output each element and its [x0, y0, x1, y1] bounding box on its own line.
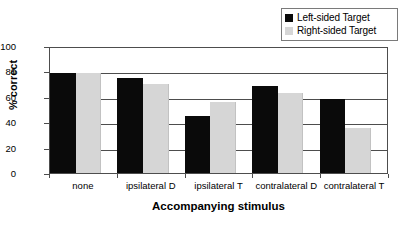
bar-group-ipsilateral-t	[185, 48, 252, 173]
legend-label-left-sided-target: Left-sided Target	[297, 12, 370, 23]
bar-right-sided-target-contralateral-d	[278, 93, 304, 173]
y-tick-label-100: 100	[0, 42, 16, 52]
bar-left-sided-target-contralateral-t	[320, 99, 346, 173]
y-tick-label-80: 80	[0, 67, 16, 77]
legend-entry-right-sided-target: Right-sided Target	[285, 24, 394, 37]
bar-group-contralateral-d	[252, 48, 319, 173]
x-tick-mark-1	[117, 174, 118, 178]
legend-label-right-sided-target: Right-sided Target	[297, 25, 376, 36]
chart-legend: Left-sided Target Right-sided Target	[281, 8, 398, 41]
x-tick-mark-0	[49, 174, 50, 178]
bar-left-sided-target-none	[50, 73, 76, 173]
x-tick-mark-3	[252, 174, 253, 178]
bar-left-sided-target-ipsilateral-t	[185, 116, 211, 174]
x-tick-mark-4	[320, 174, 321, 178]
legend-swatch-black-icon	[285, 14, 293, 22]
bar-right-sided-target-ipsilateral-d	[143, 84, 169, 173]
x-tick-label-contralateral-d: contralateral D	[252, 180, 320, 191]
y-axis-title: % correct	[7, 47, 19, 123]
legend-entry-left-sided-target: Left-sided Target	[285, 11, 394, 24]
bar-left-sided-target-contralateral-d	[252, 86, 278, 174]
bar-chart-figure: Left-sided Target Right-sided Target % c…	[0, 0, 408, 229]
plot-area	[49, 47, 388, 174]
bar-groups	[50, 48, 387, 173]
x-tick-label-contralateral-t: contralateral T	[320, 180, 388, 191]
x-axis-tick-labels: none ipsilateral D ipsilateral T contral…	[49, 180, 388, 191]
x-tick-mark-2	[185, 174, 186, 178]
bar-group-ipsilateral-d	[117, 48, 184, 173]
x-tick-label-ipsilateral-t: ipsilateral T	[185, 180, 253, 191]
y-tick-label-0: 0	[0, 169, 16, 179]
y-tick-label-40: 40	[0, 118, 16, 128]
legend-swatch-gray-icon	[285, 27, 293, 35]
bar-group-contralateral-t	[320, 48, 387, 173]
bar-right-sided-target-none	[76, 73, 102, 173]
bar-right-sided-target-contralateral-t	[345, 128, 371, 173]
y-tick-label-20: 20	[0, 144, 16, 154]
x-axis-title: Accompanying stimulus	[49, 200, 388, 212]
x-tick-label-none: none	[49, 180, 117, 191]
bar-right-sided-target-ipsilateral-t	[210, 102, 236, 173]
bar-left-sided-target-ipsilateral-d	[117, 78, 143, 173]
y-tick-label-60: 60	[0, 93, 16, 103]
bar-group-none	[50, 48, 117, 173]
x-tick-mark-5	[388, 174, 389, 178]
x-tick-label-ipsilateral-d: ipsilateral D	[117, 180, 185, 191]
